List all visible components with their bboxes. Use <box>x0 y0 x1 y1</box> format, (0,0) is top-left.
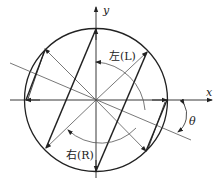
left-rotation-label: 左(L) <box>109 50 136 63</box>
diagonal-arrow-nw <box>45 49 96 100</box>
y-axis-label: y <box>102 4 110 17</box>
right-rotation-label: 右(R) <box>66 148 94 162</box>
theta-arc <box>178 104 187 132</box>
chord-inner-left <box>46 29 96 148</box>
tilted-axis-line <box>10 63 191 140</box>
diagonal-arrow-sw <box>46 100 96 148</box>
theta-label: θ <box>189 115 196 128</box>
chord-left-edge <box>28 52 44 99</box>
rotation-diagram: y x 左(L) 右(R) θ <box>0 0 220 186</box>
x-axis-label: x <box>206 86 213 99</box>
